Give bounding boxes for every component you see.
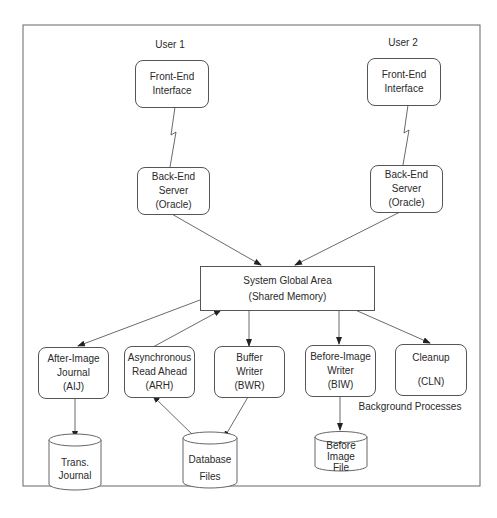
system-global-area: System Global Area (Shared Memory) bbox=[200, 266, 375, 311]
link-fe1-be1 bbox=[170, 107, 176, 167]
fe2-line1: Front-End bbox=[382, 68, 426, 82]
cln-line1: Cleanup bbox=[412, 351, 449, 365]
process-cln: Cleanup (CLN) bbox=[395, 344, 467, 396]
cln-line2: (CLN) bbox=[418, 375, 445, 389]
aij-line3: (AIJ) bbox=[63, 380, 84, 394]
process-aij: After-Image Journal (AIJ) bbox=[38, 347, 109, 399]
sga-title: System Global Area bbox=[243, 273, 331, 289]
tj-line2: Journal bbox=[49, 469, 101, 482]
process-arh: Asynchronous Read Ahead (ARH) bbox=[124, 346, 195, 398]
sga-subtitle: (Shared Memory) bbox=[249, 289, 327, 305]
user-1-label: User 1 bbox=[140, 38, 200, 52]
biw-line2: Writer bbox=[327, 364, 353, 378]
biw-line1: Before-Image bbox=[310, 350, 371, 364]
aij-line2: Journal bbox=[57, 366, 90, 380]
process-bwr: Buffer Writer (BWR) bbox=[214, 346, 285, 398]
before-image-file-label: Before Image File bbox=[315, 440, 367, 473]
arh-line2: Read Ahead bbox=[132, 365, 187, 379]
database-files-label: Database Files bbox=[183, 451, 237, 485]
fe2-line2: Interface bbox=[385, 82, 424, 96]
be2-line3: (Oracle) bbox=[388, 196, 424, 210]
link-fe2-be2 bbox=[403, 105, 409, 165]
biw-line3: (BIW) bbox=[328, 378, 354, 392]
be1-line3: (Oracle) bbox=[155, 198, 191, 212]
arh-line3: (ARH) bbox=[146, 379, 174, 393]
be1-line2: Server bbox=[159, 184, 188, 198]
fe1-line2: Interface bbox=[153, 84, 192, 98]
process-biw: Before-Image Writer (BIW) bbox=[305, 345, 376, 397]
bif-line1: Before bbox=[315, 440, 367, 451]
front-end-interface-2: Front-End Interface bbox=[367, 58, 441, 106]
back-end-server-1: Back-End Server (Oracle) bbox=[137, 167, 210, 215]
tj-line1: Trans. bbox=[49, 456, 101, 469]
trans-journal-label: Trans. Journal bbox=[49, 456, 101, 482]
bif-line2: Image bbox=[315, 451, 367, 462]
front-end-interface-1: Front-End Interface bbox=[135, 60, 209, 108]
user-2-label: User 2 bbox=[373, 36, 433, 50]
aij-line1: After-Image bbox=[47, 352, 99, 366]
db-line1: Database bbox=[183, 451, 237, 468]
bwr-line2: Writer bbox=[236, 365, 262, 379]
be2-line2: Server bbox=[392, 182, 421, 196]
be1-line1: Back-End bbox=[152, 170, 195, 184]
bwr-line3: (BWR) bbox=[235, 379, 265, 393]
fe1-line1: Front-End bbox=[150, 70, 194, 84]
arh-line1: Asynchronous bbox=[128, 351, 191, 365]
bif-line3: File bbox=[315, 462, 367, 473]
db-line2: Files bbox=[183, 468, 237, 485]
be2-line1: Back-End bbox=[385, 168, 428, 182]
back-end-server-2: Back-End Server (Oracle) bbox=[370, 165, 443, 213]
background-processes-label: Background Processes bbox=[355, 400, 465, 414]
bwr-line1: Buffer bbox=[236, 351, 263, 365]
